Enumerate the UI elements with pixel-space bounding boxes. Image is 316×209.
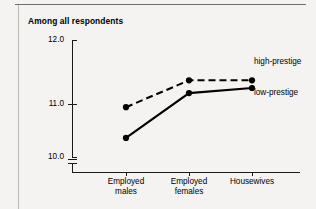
series-svg [0, 0, 316, 209]
data-point-low-prestige-1 [186, 90, 192, 96]
data-point-high-prestige-0 [123, 104, 129, 110]
series-markers-low-prestige [123, 85, 255, 141]
data-point-high-prestige-2 [249, 77, 255, 83]
chart-plot-area: 12.0 11.0 10.0 Employed males Employed f… [0, 0, 316, 209]
legend-label-low-prestige: low-prestige [254, 88, 298, 97]
data-point-low-prestige-0 [123, 135, 129, 141]
figure-page: Among all respondents 12.0 11.0 10.0 Emp… [0, 0, 316, 209]
data-point-high-prestige-1 [186, 77, 192, 83]
legend-label-high-prestige: high-prestige [254, 57, 301, 66]
